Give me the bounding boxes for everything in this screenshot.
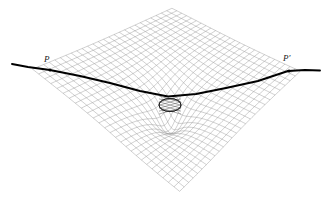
figure-canvas: [0, 0, 331, 201]
observer-point-pprime: [288, 70, 291, 73]
label-point-p: P: [44, 55, 50, 64]
spacetime-curvature-figure: P P′: [0, 0, 331, 201]
label-point-p-prime: P′: [283, 54, 290, 63]
source-point-p: [49, 69, 52, 72]
